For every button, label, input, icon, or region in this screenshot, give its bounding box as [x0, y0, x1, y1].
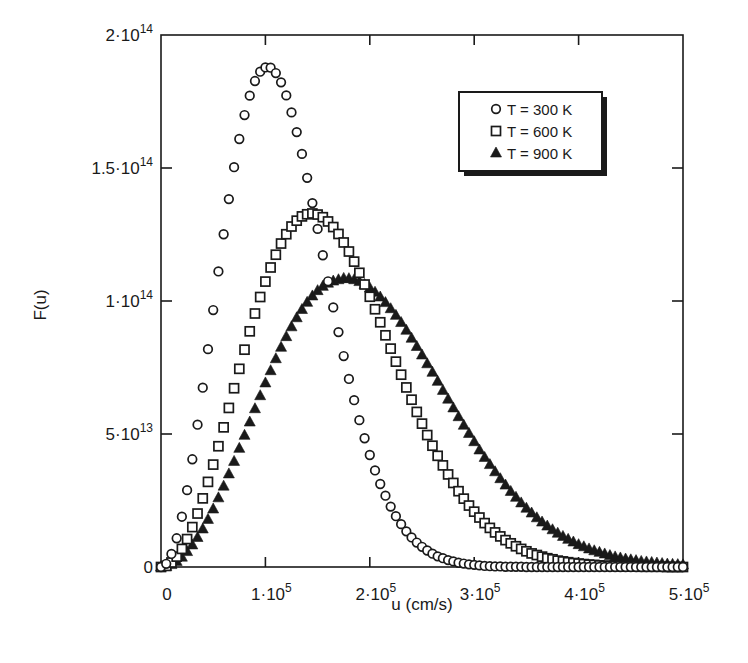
data-point	[188, 455, 197, 464]
series-600k	[157, 209, 688, 572]
data-point	[339, 238, 348, 247]
data-point	[437, 384, 448, 394]
legend-label: T = 300 K	[507, 101, 572, 118]
data-point	[334, 229, 343, 238]
data-point	[172, 534, 181, 543]
data-point	[245, 327, 254, 336]
x-tick-label: 0	[162, 585, 171, 604]
series-300k	[157, 63, 688, 571]
x-axis-title: u (cm/s)	[391, 595, 452, 614]
data-point	[235, 364, 244, 373]
data-point	[218, 480, 229, 490]
data-point	[239, 429, 250, 439]
data-point	[366, 451, 375, 460]
x-tick-label: 4·105	[564, 581, 605, 604]
chart-canvas: 01·1052·1053·1054·1055·105 05·10131·1014…	[0, 0, 748, 663]
x-tick-label: 1·105	[251, 581, 292, 604]
data-point	[250, 309, 259, 318]
data-point	[193, 509, 202, 518]
data-point	[203, 477, 212, 486]
data-point	[392, 512, 401, 521]
data-point	[402, 383, 411, 392]
data-point	[204, 345, 213, 354]
data-point	[438, 461, 447, 470]
data-point	[266, 263, 275, 272]
data-point	[230, 163, 239, 172]
data-point	[381, 331, 390, 340]
data-point	[197, 523, 208, 533]
data-point	[381, 491, 390, 500]
data-point	[407, 395, 416, 404]
data-point	[371, 466, 380, 475]
data-point	[371, 305, 380, 314]
data-point	[219, 423, 228, 432]
data-point	[261, 277, 270, 286]
data-point	[350, 396, 359, 405]
data-point	[679, 563, 688, 572]
data-point	[198, 494, 207, 503]
data-point	[249, 403, 260, 413]
data-point	[234, 442, 245, 452]
data-point	[202, 513, 213, 523]
data-point	[193, 420, 202, 429]
data-point	[229, 455, 240, 465]
y-axis-title: F(u)	[31, 289, 50, 320]
data-point	[303, 174, 312, 183]
data-point	[223, 468, 234, 478]
data-point	[251, 77, 260, 86]
legend-marker-icon	[492, 127, 501, 136]
data-point	[350, 257, 359, 266]
data-point	[355, 268, 364, 277]
data-point	[319, 251, 328, 260]
data-point	[271, 250, 280, 259]
data-point	[365, 292, 374, 301]
data-point	[391, 357, 400, 366]
legend-marker-icon	[492, 105, 501, 114]
y-tick-label: 1·1014	[106, 288, 154, 311]
data-point	[177, 544, 186, 553]
data-point	[433, 451, 442, 460]
data-point	[339, 352, 348, 361]
data-point	[225, 195, 234, 204]
data-point	[313, 225, 322, 234]
data-point	[213, 492, 224, 502]
data-point	[376, 480, 385, 489]
data-point	[308, 199, 317, 208]
y-tick-label: 2·1014	[106, 22, 154, 45]
data-series-layer	[156, 63, 689, 571]
data-point	[277, 78, 286, 87]
data-point	[230, 384, 239, 393]
y-tick-label: 0	[144, 558, 153, 577]
data-point	[360, 434, 369, 443]
data-point	[282, 91, 291, 100]
legend-label: T = 900 K	[507, 145, 572, 162]
data-point	[345, 375, 354, 384]
data-point	[178, 512, 187, 521]
data-point	[260, 377, 271, 387]
data-point	[397, 370, 406, 379]
y-tick-label: 5·1013	[106, 421, 154, 444]
data-point	[292, 128, 301, 137]
data-point	[183, 535, 192, 544]
data-point	[277, 239, 286, 248]
data-point	[344, 247, 353, 256]
data-point	[423, 431, 432, 440]
data-point	[256, 293, 265, 302]
data-point	[386, 502, 395, 511]
x-tick-label: 3·105	[460, 581, 501, 604]
data-point	[209, 460, 218, 469]
data-point	[329, 303, 338, 312]
data-point	[272, 69, 281, 78]
data-point	[214, 442, 223, 451]
data-point	[219, 230, 228, 239]
data-point	[286, 321, 297, 331]
x-tick-label: 5·105	[669, 581, 710, 604]
data-point	[167, 550, 176, 559]
data-point	[265, 365, 276, 375]
data-point	[235, 135, 244, 144]
data-point	[412, 407, 421, 416]
x-axis-ticks: 01·1052·1053·1054·1055·105	[162, 35, 709, 604]
data-point	[162, 560, 171, 569]
data-point	[386, 344, 395, 353]
data-point	[183, 486, 192, 495]
